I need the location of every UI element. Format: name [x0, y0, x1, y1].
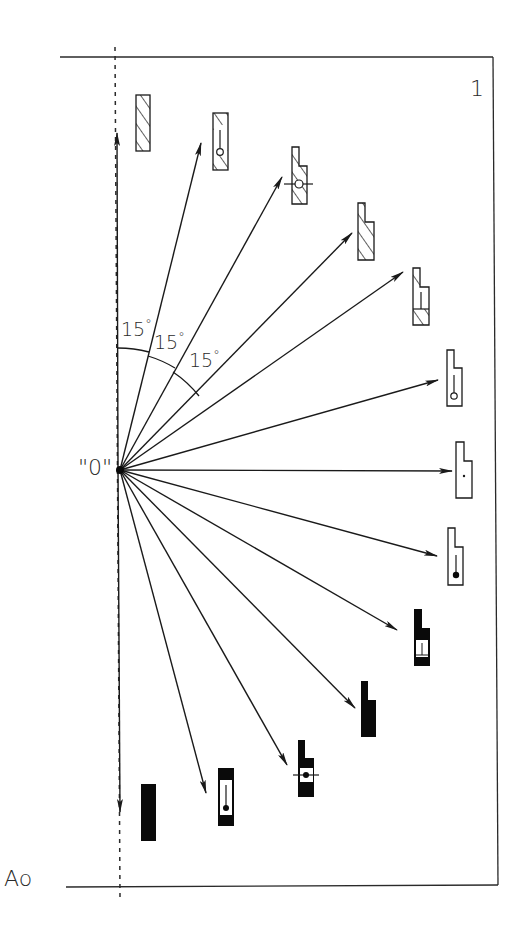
symbol-150deg: [293, 740, 319, 797]
symbol-165deg: [218, 768, 234, 826]
frame-right-line: [493, 57, 498, 885]
arrow-120deg: [120, 470, 397, 630]
degree-sign: °: [178, 329, 185, 344]
arrow-150deg: [120, 470, 287, 765]
symbol-15deg: [213, 113, 228, 170]
arrow-60deg: [120, 272, 403, 470]
degree-sign: °: [213, 347, 220, 362]
angle-arcs: [117, 348, 199, 396]
frame-number: 1: [470, 76, 484, 101]
arrow-75deg: [120, 380, 438, 470]
arrow-105deg: [120, 470, 437, 556]
filled-dot-icon: [453, 572, 459, 578]
angle-value: 15: [189, 349, 213, 371]
angle-label-3: 15°: [189, 349, 220, 371]
arrow-15deg: [120, 143, 201, 470]
arrow-135deg: [120, 470, 355, 708]
arrows: [117, 133, 452, 812]
symbol-90deg: [456, 442, 472, 498]
symbol-45deg: [358, 203, 374, 260]
symbol-135deg: [361, 681, 376, 737]
crosshair-circle-icon: [295, 180, 303, 188]
symbol-30deg: [284, 147, 313, 204]
symbol-75deg: [447, 350, 462, 406]
symbol-180deg: [141, 784, 156, 841]
arrow-0deg: [117, 133, 118, 470]
filled-dot-icon: [303, 772, 309, 778]
angle-label-1: 15°: [121, 318, 152, 340]
open-circle-icon: [451, 393, 457, 399]
open-circle-icon: [217, 149, 224, 156]
angle-arc-1: [117, 348, 149, 352]
reference-label: Ao: [4, 866, 32, 891]
symbol-120deg: [414, 609, 430, 666]
angle-value: 15: [154, 331, 178, 353]
origin-point: [116, 466, 124, 474]
arrow-180deg: [118, 470, 120, 812]
angle-label-2: 15°: [154, 331, 185, 353]
dot-icon: [463, 475, 465, 477]
symbol-105deg: [448, 528, 463, 585]
symbol-60deg: [413, 268, 429, 325]
filled-dot-icon: [223, 805, 229, 811]
origin-label: "0": [78, 455, 112, 480]
frame-bottom-line: [66, 885, 498, 887]
angle-value: 15: [121, 318, 145, 340]
angle-arc-2: [148, 356, 175, 368]
symbol-0deg: [136, 95, 150, 151]
degree-sign: °: [145, 316, 152, 331]
arrow-90deg: [120, 470, 452, 471]
arrow-165deg: [120, 470, 206, 793]
